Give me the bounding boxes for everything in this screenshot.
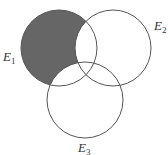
venn-diagram: [0, 0, 168, 155]
label-e1: E1: [3, 50, 15, 66]
label-e3: E3: [78, 141, 90, 155]
label-e2: E2: [154, 19, 166, 35]
